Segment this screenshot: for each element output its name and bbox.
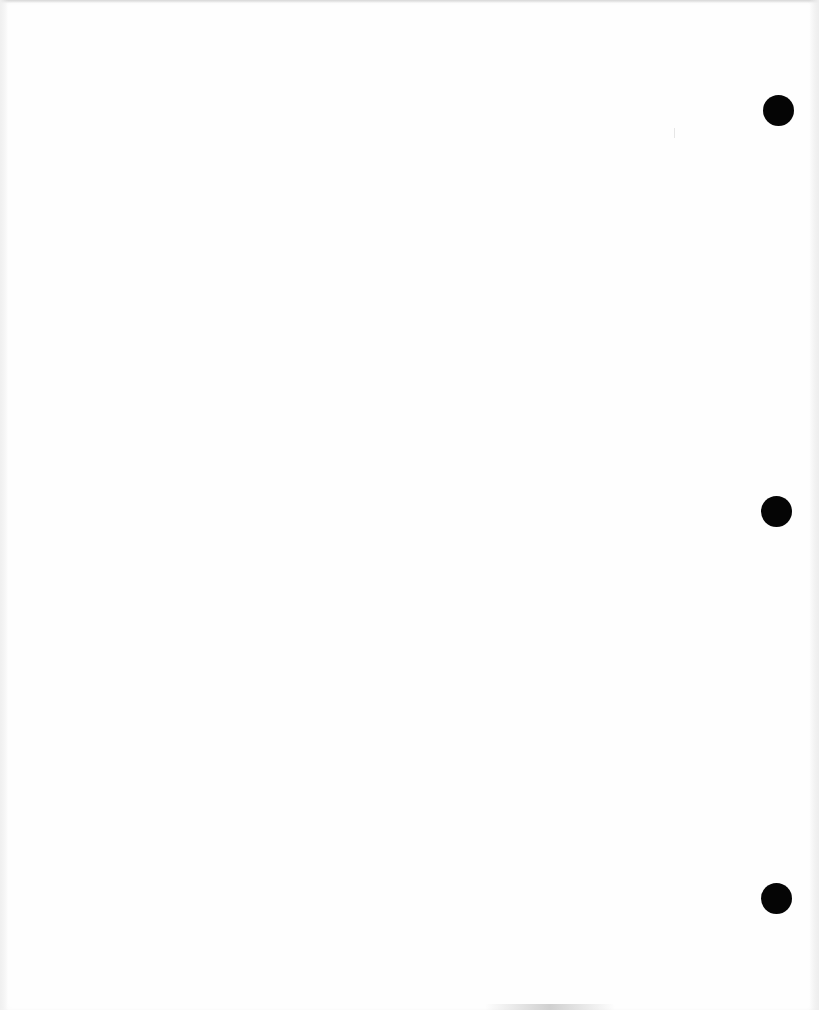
page-right-edge <box>809 0 819 1010</box>
bottom-scan-smudge <box>485 1004 615 1010</box>
page-left-edge <box>0 0 8 1010</box>
faint-scan-mark <box>674 128 675 138</box>
punch-hole-middle <box>761 496 792 527</box>
punch-hole-top <box>763 95 794 126</box>
punch-hole-bottom <box>761 883 792 914</box>
page-top-edge <box>0 0 819 3</box>
blank-page <box>0 0 819 1010</box>
